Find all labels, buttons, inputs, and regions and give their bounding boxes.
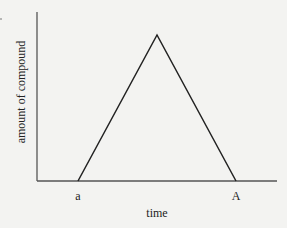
x-axis-label: time xyxy=(146,206,167,220)
x-tick-a: a xyxy=(75,189,81,203)
x-tick-A: A xyxy=(232,189,241,203)
y-axis-label: amount of compound xyxy=(14,41,28,144)
speck-mark xyxy=(0,18,2,20)
chart: a A time amount of compound xyxy=(0,0,287,228)
data-line xyxy=(78,35,236,181)
